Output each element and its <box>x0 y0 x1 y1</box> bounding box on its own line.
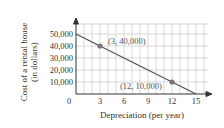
x-tick: 3 <box>98 96 102 106</box>
x-tick: 9 <box>146 96 150 106</box>
x-tick: 12 <box>168 96 177 106</box>
x-tick: 6 <box>122 96 126 106</box>
y-tick: 40,000 <box>50 41 73 51</box>
data-point <box>97 43 102 48</box>
y-tick: 30,000 <box>50 53 73 63</box>
depreciation-chart: 10,000 20,000 30,000 40,000 50,000 0 3 6… <box>0 0 224 128</box>
y-tick: 20,000 <box>50 65 73 75</box>
data-point <box>169 79 174 84</box>
x-tick: 0 <box>67 96 71 106</box>
x-axis-label: Depreciation (per year) <box>100 110 184 120</box>
y-tick: 50,000 <box>50 29 73 39</box>
point-label: (12, 10,000) <box>120 81 162 91</box>
x-tick-labels: 0 3 6 9 12 15 <box>67 96 200 106</box>
y-tick-labels: 10,000 20,000 30,000 40,000 50,000 <box>50 29 73 87</box>
y-axis-label-line1: Cost of a rental house <box>19 23 29 101</box>
point-label: (3, 40,000) <box>108 36 146 46</box>
y-tick: 10,000 <box>50 77 73 87</box>
y-axis-label-line2: (in dollars) <box>29 42 39 82</box>
x-tick: 15 <box>192 96 201 106</box>
